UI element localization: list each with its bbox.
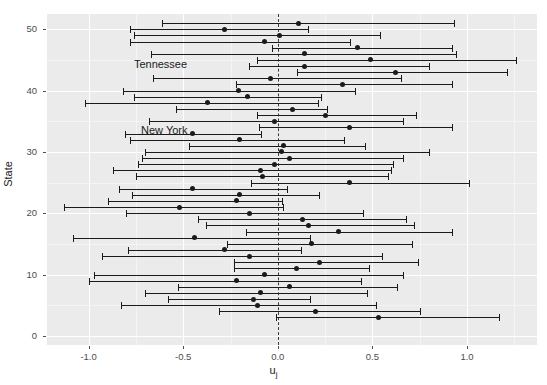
error-bar-cap-low bbox=[128, 247, 129, 254]
error-bar bbox=[219, 311, 420, 312]
data-point bbox=[251, 297, 256, 302]
error-bar-cap-high bbox=[420, 308, 421, 315]
data-point bbox=[340, 82, 345, 87]
error-bar-cap-low bbox=[136, 173, 137, 180]
error-bar-cap-high bbox=[393, 161, 394, 168]
y-axis-tick-label: 20 bbox=[11, 207, 37, 218]
error-bar-cap-high bbox=[418, 259, 419, 266]
error-bar-cap-high bbox=[403, 272, 404, 279]
error-bar bbox=[145, 152, 429, 153]
y-axis-tick-label: 0 bbox=[11, 330, 37, 341]
data-point bbox=[258, 290, 263, 295]
data-point bbox=[237, 137, 242, 142]
data-point bbox=[234, 198, 239, 203]
error-bar-cap-high bbox=[367, 290, 368, 297]
x-axis-tick-label: 0.0 bbox=[258, 351, 298, 362]
error-bar-cap-high bbox=[319, 192, 320, 199]
error-bar-cap-high bbox=[499, 314, 500, 321]
data-point bbox=[177, 205, 182, 210]
error-bar-cap-high bbox=[507, 69, 508, 76]
error-bar-cap-low bbox=[132, 192, 133, 199]
data-point bbox=[268, 76, 273, 81]
error-bar bbox=[257, 115, 416, 116]
y-axis-tick-mark bbox=[43, 152, 46, 153]
gridline-major-vertical bbox=[372, 14, 373, 345]
error-bar-cap-low bbox=[198, 216, 199, 223]
data-point bbox=[237, 192, 242, 197]
error-bar bbox=[130, 29, 308, 30]
y-axis-tick-mark bbox=[43, 213, 46, 214]
data-point bbox=[222, 247, 227, 252]
error-bar-cap-high bbox=[388, 173, 389, 180]
y-axis-title: State bbox=[2, 144, 14, 204]
y-axis-tick-mark bbox=[43, 91, 46, 92]
data-point bbox=[272, 162, 277, 167]
data-point bbox=[393, 70, 398, 75]
error-bar-cap-low bbox=[130, 26, 131, 33]
data-point bbox=[309, 241, 314, 246]
error-bar-cap-low bbox=[123, 88, 124, 95]
error-bar-cap-high bbox=[350, 39, 351, 46]
data-point bbox=[190, 131, 195, 136]
error-bar-cap-low bbox=[257, 57, 258, 64]
error-bar bbox=[234, 262, 418, 263]
error-bar-cap-high bbox=[380, 32, 381, 39]
error-bar bbox=[89, 281, 361, 282]
x-axis-tick-mark bbox=[467, 346, 468, 349]
gridline-major-horizontal bbox=[47, 336, 537, 337]
gridline-minor-vertical bbox=[514, 14, 515, 345]
data-point bbox=[247, 211, 252, 216]
error-bar-cap-high bbox=[282, 198, 283, 205]
y-axis-tick-label: 40 bbox=[11, 85, 37, 96]
error-bar-cap-low bbox=[126, 210, 127, 217]
error-bar-cap-high bbox=[456, 51, 457, 58]
error-bar-cap-low bbox=[119, 186, 120, 193]
error-bar-cap-low bbox=[94, 272, 95, 279]
data-point bbox=[296, 21, 301, 26]
error-bar bbox=[259, 127, 452, 128]
data-point bbox=[272, 119, 277, 124]
data-point bbox=[290, 107, 295, 112]
point-label-tennessee: Tennessee bbox=[134, 58, 187, 70]
point-label-new-york: New York bbox=[141, 124, 187, 136]
error-bar-cap-high bbox=[363, 210, 364, 217]
x-axis-tick-label: 1.0 bbox=[447, 351, 487, 362]
error-bar bbox=[168, 299, 310, 300]
error-bar-cap-high bbox=[310, 296, 311, 303]
error-bar-cap-low bbox=[102, 253, 103, 260]
error-bar bbox=[297, 72, 507, 73]
data-point bbox=[323, 113, 328, 118]
error-bar bbox=[257, 60, 516, 61]
error-bar-cap-high bbox=[412, 241, 413, 248]
data-point bbox=[347, 125, 352, 130]
data-point bbox=[287, 156, 292, 161]
data-point bbox=[255, 303, 260, 308]
error-bar-cap-high bbox=[397, 284, 398, 291]
error-bar-cap-high bbox=[429, 63, 430, 70]
error-bar-cap-high bbox=[344, 137, 345, 144]
error-bar bbox=[85, 103, 318, 104]
error-bar-cap-high bbox=[403, 155, 404, 162]
x-axis-title: uj bbox=[0, 364, 547, 379]
error-bar-cap-high bbox=[406, 216, 407, 223]
error-bar-cap-high bbox=[452, 45, 453, 52]
error-bar-cap-low bbox=[234, 265, 235, 272]
error-bar-cap-high bbox=[469, 180, 470, 187]
error-bar bbox=[234, 268, 368, 269]
error-bar bbox=[94, 275, 402, 276]
error-bar-cap-low bbox=[168, 296, 169, 303]
error-bar-cap-high bbox=[369, 265, 370, 272]
y-axis-tick-label: 50 bbox=[11, 23, 37, 34]
error-bar bbox=[113, 170, 391, 171]
data-point bbox=[279, 149, 284, 154]
gridline-minor-vertical bbox=[325, 14, 326, 345]
error-bar bbox=[251, 183, 469, 184]
error-bar-cap-low bbox=[138, 161, 139, 168]
error-bar-cap-low bbox=[113, 167, 114, 174]
data-point bbox=[262, 272, 267, 277]
error-bar bbox=[246, 232, 452, 233]
error-bar-cap-low bbox=[206, 222, 207, 229]
error-bar-cap-low bbox=[189, 143, 190, 150]
error-bar-cap-low bbox=[130, 39, 131, 46]
gridline-major-vertical bbox=[467, 14, 468, 345]
